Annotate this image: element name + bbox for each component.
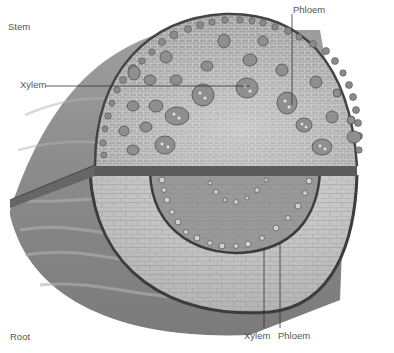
stem-cross-section	[95, 14, 363, 166]
label-root: Root	[10, 332, 30, 342]
label-root-xylem: Xylem	[244, 331, 270, 341]
stem-root-cross-section-diagram	[0, 0, 394, 353]
label-stem: Stem	[8, 22, 30, 32]
label-stem-xylem: Xylem	[20, 80, 46, 90]
label-root-phloem: Phloem	[278, 331, 310, 341]
label-stem-phloem: Phloem	[293, 5, 325, 15]
